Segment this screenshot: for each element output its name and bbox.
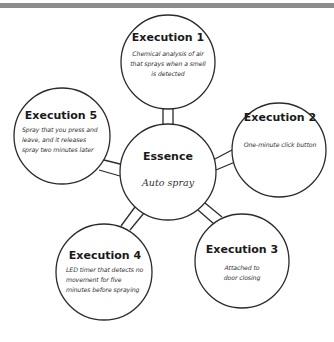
node-text: Attached to door closing <box>203 263 281 283</box>
node-execution-4: Execution 4 LED timer that detects no mo… <box>66 249 144 295</box>
node-execution-2: Execution 2 One-minute click button <box>239 111 321 150</box>
node-execution-3: Execution 3 Attached to door closing <box>203 243 281 283</box>
center-node-essence: Essence Auto spray <box>125 150 211 188</box>
node-title: Execution 3 <box>203 243 281 256</box>
node-title: Execution 5 <box>22 109 100 122</box>
node-text: One-minute click button <box>239 140 321 150</box>
node-text: Spray that you press and leave, and it r… <box>22 125 100 155</box>
node-text: Chemical analysis of air that sprays whe… <box>128 49 208 79</box>
node-title: Execution 1 <box>128 31 208 44</box>
node-execution-1: Execution 1 Chemical analysis of air tha… <box>128 31 208 79</box>
node-text: LED timer that detects no movement for f… <box>66 265 144 295</box>
center-text: Auto spray <box>125 177 211 188</box>
node-execution-5: Execution 5 Spray that you press and lea… <box>22 109 100 155</box>
node-title: Execution 2 <box>239 111 321 124</box>
center-title: Essence <box>125 150 211 163</box>
node-title: Execution 4 <box>66 249 144 262</box>
